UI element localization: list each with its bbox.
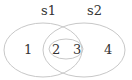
region-3-label: 3 [73,42,81,57]
region-2-label: 2 [52,42,60,57]
set-s2-label: s2 [87,3,102,18]
region-4-label: 4 [104,42,112,57]
region-1-label: 1 [24,42,32,57]
set-s1-label: s1 [41,3,56,18]
venn-diagram: s1 s2 1 2 3 4 [0,0,132,80]
